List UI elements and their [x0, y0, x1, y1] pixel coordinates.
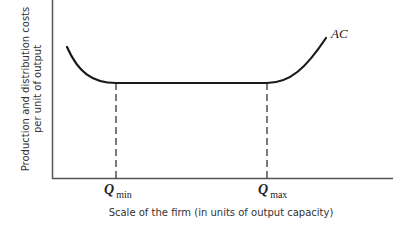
chart: AC Qmin Qmax Scale of the firm (in units… — [0, 0, 410, 228]
ac-curve-label: AC — [330, 26, 348, 41]
q-max-label: Qmax — [258, 182, 287, 200]
y-axis-label-line-2: per unit of output — [32, 45, 43, 133]
ac-curve — [67, 38, 326, 83]
q-min-label: Qmin — [104, 182, 132, 200]
x-axis-label: Scale of the firm (in units of output ca… — [109, 207, 334, 218]
y-axis-label-line-1: Production and distribution costs — [20, 7, 31, 172]
